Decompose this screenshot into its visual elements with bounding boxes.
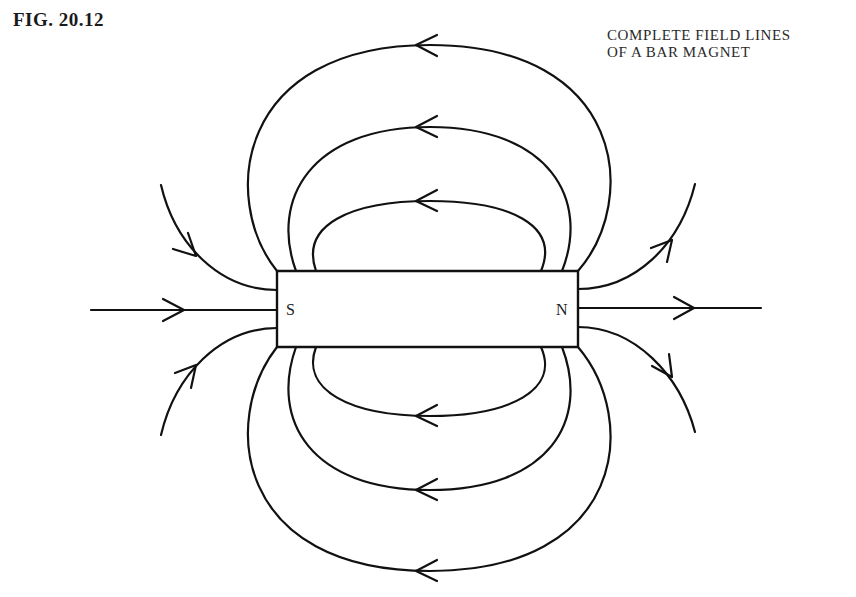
field-line-bottom-middle: [288, 347, 570, 490]
field-line-right-lower: [578, 327, 695, 432]
field-line-top-middle: [288, 127, 570, 271]
field-line-left-upper: [161, 185, 277, 290]
field-line-right-upper: [578, 184, 695, 289]
north-pole-label: N: [556, 301, 568, 318]
bar-magnet: [277, 271, 578, 347]
field-line-top-inner: [313, 201, 545, 271]
field-line-top-outer: [248, 45, 611, 271]
field-line-left-lower: [161, 328, 277, 435]
arrow-icon: [652, 354, 672, 377]
south-pole-label: S: [286, 301, 295, 318]
field-line-diagram: S N: [0, 0, 856, 597]
field-line-bottom-inner: [313, 347, 545, 416]
field-line-bottom-outer: [248, 347, 611, 571]
arrow-icon: [173, 233, 196, 256]
